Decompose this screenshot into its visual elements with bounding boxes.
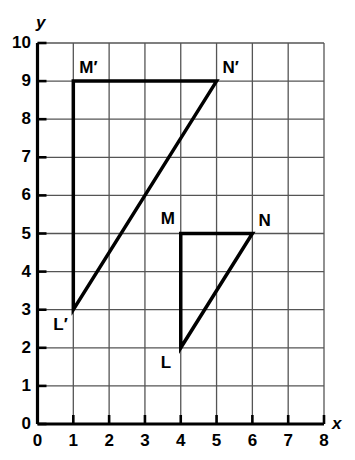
x-tick-label-0: 0 [24, 432, 52, 449]
vertex-label-L: L [161, 354, 171, 371]
y-tick-label-3: 3 [0, 301, 31, 318]
coordinate-grid-svg [0, 0, 355, 460]
x-tick-label-3: 3 [131, 432, 159, 449]
y-axis-label: y [36, 14, 45, 31]
x-axis-label: x [332, 415, 341, 432]
vertex-label-L-prime: L′ [53, 316, 67, 333]
y-tick-label-8: 8 [0, 110, 31, 127]
y-tick-label-10: 10 [0, 34, 31, 51]
y-tick-label-0: 0 [0, 415, 31, 432]
y-tick-label-7: 7 [0, 148, 31, 165]
y-tick-label-4: 4 [0, 263, 31, 280]
x-tick-label-6: 6 [238, 432, 266, 449]
y-tick-label-9: 9 [0, 72, 31, 89]
y-tick-label-5: 5 [0, 225, 31, 242]
vertex-label-N: N [258, 212, 270, 229]
x-tick-label-1: 1 [59, 432, 87, 449]
vertex-label-M-prime: M′ [79, 59, 97, 76]
coordinate-plane-figure: y x 012345678 012345678910 M′N′L′MNL [0, 0, 355, 460]
x-tick-label-4: 4 [167, 432, 195, 449]
x-tick-label-7: 7 [274, 432, 302, 449]
x-tick-label-2: 2 [95, 432, 123, 449]
vertex-label-N-prime: N′ [223, 59, 239, 76]
y-tick-label-2: 2 [0, 339, 31, 356]
x-tick-label-5: 5 [203, 432, 231, 449]
y-tick-label-1: 1 [0, 377, 31, 394]
vertex-label-M: M [161, 210, 175, 227]
y-tick-label-6: 6 [0, 186, 31, 203]
x-tick-label-8: 8 [310, 432, 338, 449]
